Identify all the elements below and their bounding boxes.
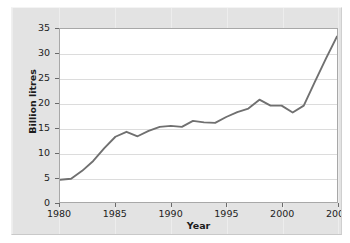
line-series-svg (60, 29, 337, 202)
y-tick-label: 10 (28, 148, 50, 158)
x-tick-mark (59, 203, 60, 207)
x-tick-mark (226, 203, 227, 207)
y-tick-label: 5 (28, 173, 50, 183)
x-tick-label: 1980 (42, 208, 76, 219)
y-tick-label: 30 (28, 48, 50, 58)
sheet-rule (12, 8, 13, 234)
y-tick-label: 0 (28, 198, 50, 208)
y-tick-label: 35 (28, 23, 50, 33)
y-tick-label: 15 (28, 123, 50, 133)
x-tick-label: 1985 (98, 208, 132, 219)
x-tick-label: 1990 (154, 208, 188, 219)
sheet-rule (338, 8, 339, 234)
x-tick-mark (115, 203, 116, 207)
x-tick-label: 2005 (321, 208, 342, 219)
x-tick-mark (282, 203, 283, 207)
x-tick-label: 1995 (209, 208, 243, 219)
chart-figure-panel: Billion litres Year 05101520253035 19801… (11, 7, 342, 235)
x-tick-label: 2000 (265, 208, 299, 219)
data-line-billion-litres (60, 36, 337, 179)
x-tick-mark (338, 203, 339, 207)
x-tick-mark (171, 203, 172, 207)
x-axis-title: Year (59, 220, 338, 231)
y-tick-label: 20 (28, 98, 50, 108)
y-tick-label: 25 (28, 73, 50, 83)
plot-area (59, 28, 338, 203)
